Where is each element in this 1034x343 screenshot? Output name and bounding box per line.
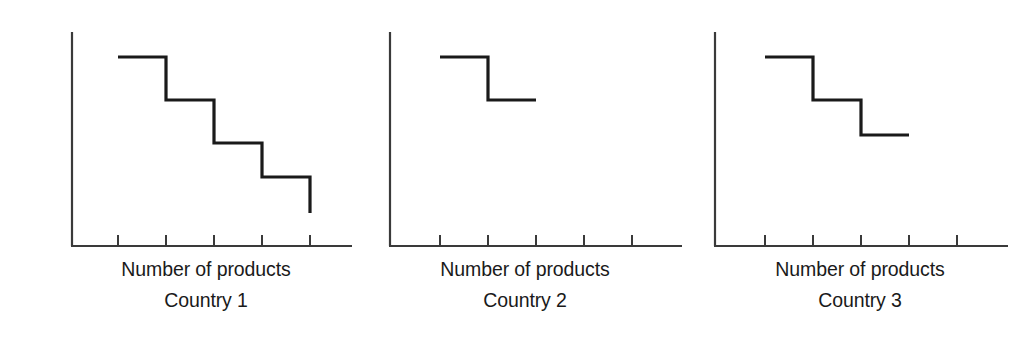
panel-country-1: Cost per product Number of products Coun… [0,0,360,343]
panel-caption-country-3: Country 3 [710,289,1010,312]
step-line-country-1 [118,57,310,213]
panel-caption-country-1: Country 1 [72,289,340,312]
step-line-country-2 [440,57,536,100]
x-axis-label-country-3: Number of products [710,258,1010,281]
x-axis-label-country-2: Number of products [380,258,670,281]
panel-caption-country-2: Country 2 [380,289,670,312]
x-axis-label-country-1: Number of products [72,258,340,281]
panel-country-3: Number of products Country 3 [690,0,1034,343]
x-axis-ticks [440,235,632,246]
step-line-country-3 [765,57,909,135]
x-axis-ticks [118,235,310,246]
panel-country-2: Number of products Country 2 [360,0,690,343]
x-axis-ticks [765,235,957,246]
step-chart-figure: Cost per product Number of products Coun… [0,0,1034,343]
